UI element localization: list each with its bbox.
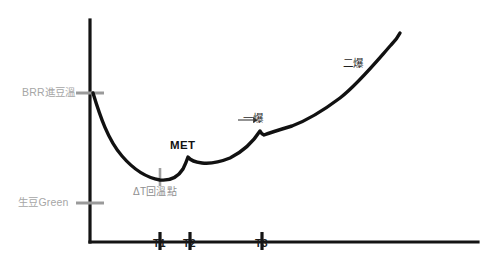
annotation-met: MET [170, 140, 195, 152]
y-label-green: 生豆Green [18, 197, 69, 208]
roast-curve-canvas [0, 0, 504, 273]
annotation-turning-point: ΔT回溫點 [133, 187, 177, 197]
roast-profile-diagram: BRR進豆溫 生豆Green ΔT回溫點 MET 一爆 二爆 T1 T2 T3 [0, 0, 504, 273]
annotation-first-crack: 一爆 [243, 113, 264, 124]
x-tick-label-t1: T1 [153, 238, 166, 249]
y-label-brr: BRR進豆溫 [22, 87, 75, 98]
x-tick-label-t2: T2 [183, 238, 196, 249]
annotation-second-crack: 二爆 [343, 58, 364, 69]
x-tick-label-t3: T3 [255, 238, 268, 249]
bean-temperature-curve [93, 33, 400, 180]
